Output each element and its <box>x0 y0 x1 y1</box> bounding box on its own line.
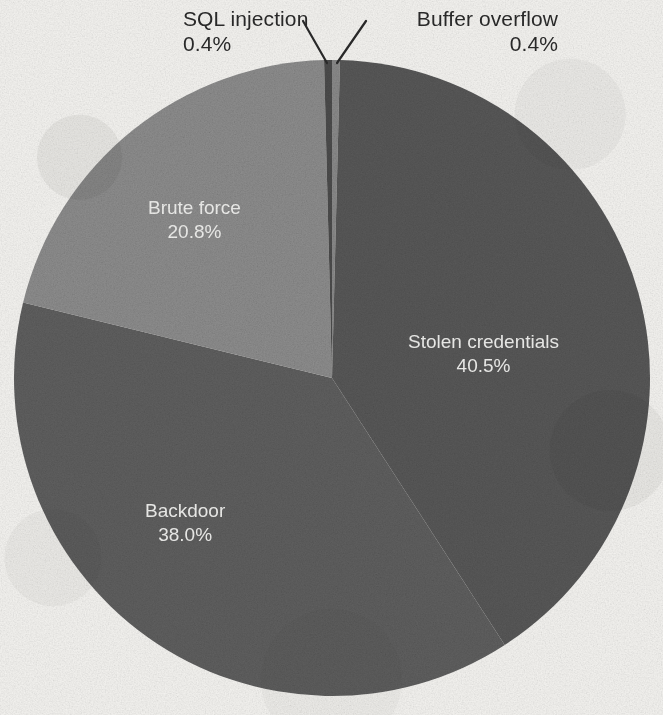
slice-label-stolen-credentials-name: Stolen credentials <box>408 330 559 354</box>
pie-chart-canvas <box>0 0 663 715</box>
leader-line-buffer-overflow <box>337 21 366 63</box>
callout-sql-injection-percent: 0.4% <box>183 31 308 56</box>
slice-label-backdoor-percent: 38.0% <box>145 523 225 547</box>
callout-buffer-overflow-name: Buffer overflow <box>385 6 558 31</box>
callout-leader-lines <box>303 21 366 63</box>
slice-label-stolen-credentials: Stolen credentials 40.5% <box>408 330 559 378</box>
slice-label-backdoor-name: Backdoor <box>145 499 225 523</box>
slice-label-brute-force: Brute force 20.8% <box>148 196 241 244</box>
slice-label-brute-force-percent: 20.8% <box>148 220 241 244</box>
slice-label-backdoor: Backdoor 38.0% <box>145 499 225 547</box>
pie-slices <box>14 60 650 696</box>
callout-sql-injection: SQL injection 0.4% <box>183 6 308 56</box>
callout-buffer-overflow: Buffer overflow 0.4% <box>385 6 558 56</box>
pie-chart-figure: SQL injection 0.4% Buffer overflow 0.4% … <box>0 0 663 715</box>
slice-label-brute-force-name: Brute force <box>148 196 241 220</box>
slice-label-stolen-credentials-percent: 40.5% <box>408 354 559 378</box>
callout-buffer-overflow-percent: 0.4% <box>385 31 558 56</box>
callout-sql-injection-name: SQL injection <box>183 6 308 31</box>
